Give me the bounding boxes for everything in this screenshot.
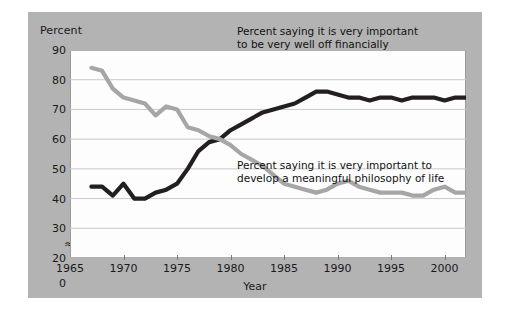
x-tick-mark: [445, 255, 446, 260]
x-axis-tick-labels: 19651970197519801985199019952000: [70, 262, 466, 278]
chart-series-canvas: [70, 50, 466, 258]
x-tick-mark: [177, 255, 178, 260]
x-tick-mark: [284, 255, 285, 260]
x-tick-1975: 1975: [163, 262, 191, 275]
y-tick-50: 50: [52, 162, 66, 175]
plot-area: [70, 50, 466, 258]
y-tick-30: 30: [52, 222, 66, 235]
y-tick-70: 70: [52, 103, 66, 116]
x-tick-1965: 1965: [56, 262, 84, 275]
y-tick-40: 40: [52, 192, 66, 205]
chart-figure: Percent 90807060504030200 ≈ 196519701975…: [28, 12, 482, 298]
x-tick-mark: [124, 255, 125, 260]
y-tick-80: 80: [52, 73, 66, 86]
x-tick-1985: 1985: [270, 262, 298, 275]
series-annotation-financial: Percent saying it is very important to b…: [237, 25, 418, 51]
x-tick-mark: [391, 255, 392, 260]
y-axis-label: Percent: [40, 24, 82, 37]
y-tick-90: 90: [52, 44, 66, 57]
y-axis-tick-labels: 90807060504030200: [34, 50, 66, 258]
x-tick-mark: [231, 255, 232, 260]
y-tick-60: 60: [52, 133, 66, 146]
series-annotation-philosophy: Percent saying it is very important to d…: [237, 159, 444, 185]
x-tick-1970: 1970: [110, 262, 138, 275]
x-axis-label: Year: [28, 280, 482, 293]
x-tick-2000: 2000: [431, 262, 459, 275]
x-tick-1980: 1980: [217, 262, 245, 275]
x-tick-mark: [338, 255, 339, 260]
x-tick-1995: 1995: [377, 262, 405, 275]
x-tick-1990: 1990: [324, 262, 352, 275]
